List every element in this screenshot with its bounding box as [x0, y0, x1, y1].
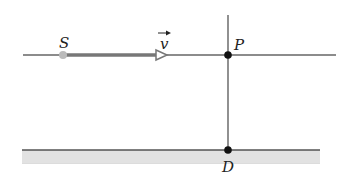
point-d-dot [224, 146, 232, 154]
source-dot [59, 51, 67, 59]
point-d-label: D [221, 158, 234, 176]
velocity-label: v [160, 35, 169, 53]
vector-arrow-icon [166, 31, 171, 36]
source-label: S [59, 34, 69, 52]
diagram-canvas: S v P D [0, 0, 353, 183]
ground-texture [22, 151, 320, 163]
point-p-dot [224, 51, 232, 59]
point-p-label: P [233, 36, 245, 54]
